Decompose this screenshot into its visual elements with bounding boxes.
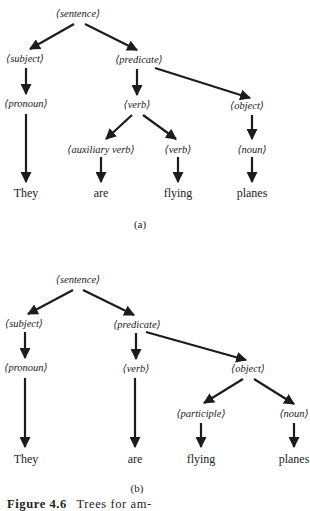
node-object: ⟨object⟩	[231, 363, 265, 374]
figure-caption: Figure 4.6 Trees for am-	[7, 497, 152, 511]
edge-object-noun	[254, 379, 294, 404]
edge-sentence-subject	[28, 290, 73, 314]
edge-predicate-object	[146, 332, 246, 360]
node-verb: ⟨verb⟩	[124, 99, 151, 110]
tree-b: ⟨sentence⟩ ⟨subject⟩ ⟨predicate⟩ ⟨pronou…	[4, 274, 309, 495]
terminal-are: are	[94, 186, 109, 200]
node-sentence: ⟨sentence⟩	[56, 274, 100, 285]
tree-a: ⟨sentence⟩ ⟨subject⟩ ⟨predicate⟩ ⟨pronou…	[4, 8, 267, 231]
node-verb: ⟨verb⟩	[123, 363, 150, 374]
node-sentence: ⟨sentence⟩	[56, 8, 100, 19]
figure-label: Figure 4.6	[7, 497, 67, 511]
node-subject: ⟨subject⟩	[6, 53, 44, 64]
terminal-planes: planes	[237, 186, 268, 200]
edge-verb-verb	[143, 115, 176, 139]
caption-text: Trees for am-	[76, 497, 151, 511]
edge-verb-auxverb	[106, 115, 132, 139]
terminal-are: are	[128, 452, 143, 466]
node-pronoun: ⟨pronoun⟩	[4, 98, 47, 109]
node-subject: ⟨subject⟩	[5, 318, 43, 329]
terminal-they: They	[14, 452, 39, 466]
node-pronoun: ⟨pronoun⟩	[4, 362, 47, 373]
edge-sentence-predicate	[83, 290, 134, 315]
node-noun: ⟨noun⟩	[237, 144, 266, 155]
node-noun: ⟨noun⟩	[279, 408, 308, 419]
edge-object-participle	[204, 379, 243, 403]
edge-predicate-object	[155, 68, 250, 98]
node-predicate: ⟨predicate⟩	[115, 54, 162, 65]
node-auxiliary-verb: ⟨auxiliary verb⟩	[67, 144, 134, 155]
terminal-they: They	[14, 186, 39, 200]
edge-sentence-predicate	[85, 24, 137, 50]
node-verb-2: ⟨verb⟩	[165, 144, 192, 155]
terminal-flying: flying	[164, 186, 193, 200]
terminal-planes: planes	[279, 452, 310, 466]
edge-sentence-subject	[30, 24, 74, 49]
parse-tree-figure: ⟨sentence⟩ ⟨subject⟩ ⟨predicate⟩ ⟨pronou…	[0, 0, 310, 511]
subfigure-label-b: (b)	[131, 482, 144, 495]
node-participle: ⟨participle⟩	[176, 408, 225, 419]
node-object: ⟨object⟩	[230, 100, 264, 111]
terminal-flying: flying	[187, 452, 216, 466]
node-predicate: ⟨predicate⟩	[113, 319, 160, 330]
subfigure-label-a: (a)	[134, 218, 147, 231]
